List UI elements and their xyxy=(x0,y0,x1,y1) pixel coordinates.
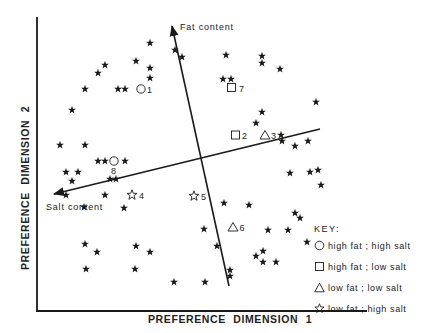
product-6-triangle-icon xyxy=(228,223,238,232)
consumer-star-icon xyxy=(252,252,260,260)
consumer-star-icon xyxy=(227,75,235,83)
consumer-star-icon xyxy=(317,181,325,189)
legend-title: KEY: xyxy=(314,224,411,234)
consumer-star-icon xyxy=(291,142,299,150)
consumer-star-icon xyxy=(264,226,272,234)
consumer-star-icon xyxy=(296,214,304,222)
salt-content-label: Salt content xyxy=(46,202,103,212)
open-star-icon xyxy=(314,303,325,314)
legend-label: low fat ; high salt xyxy=(328,304,406,314)
consumer-star-icon xyxy=(121,85,129,93)
legend-item-high-fat-high-salt: high fat ; high salt xyxy=(314,235,411,256)
product-1-circle-icon xyxy=(137,85,145,93)
consumer-star-icon xyxy=(120,204,128,212)
consumer-star-icon xyxy=(94,69,102,77)
consumer-star-icon xyxy=(82,265,90,273)
consumer-star-icon xyxy=(68,106,76,114)
consumer-star-icon xyxy=(291,209,299,217)
product-5-open-star-icon xyxy=(189,191,199,201)
consumer-star-icon xyxy=(101,61,109,69)
product-4-open-star-icon xyxy=(127,190,137,200)
product-8-circle-icon xyxy=(110,157,118,165)
consumer-star-icon xyxy=(245,201,253,209)
consumer-star-icon xyxy=(132,57,140,65)
consumer-star-icon xyxy=(276,65,284,73)
triangle-icon xyxy=(314,282,325,293)
product-markers: 1 7 2 3 8 4 5 6 xyxy=(110,84,276,234)
consumer-star-icon xyxy=(146,74,154,82)
consumer-star-icon xyxy=(222,51,230,59)
product-3-label: 3 xyxy=(271,131,276,141)
consumer-star-icon xyxy=(62,168,70,176)
legend-label: high fat ; low salt xyxy=(328,262,406,272)
consumer-star-icon xyxy=(114,85,122,93)
consumer-star-icon xyxy=(304,137,312,145)
circle-icon xyxy=(314,240,325,251)
product-3-triangle-icon xyxy=(260,131,270,140)
consumer-star-icon xyxy=(303,238,311,246)
legend-label: high fat ; high salt xyxy=(328,241,411,251)
fat-content-vector xyxy=(172,26,229,286)
consumer-star-icon xyxy=(201,278,209,286)
consumer-star-icon xyxy=(81,240,89,248)
consumer-star-icon xyxy=(74,168,82,176)
consumer-star-icon xyxy=(314,166,322,174)
product-7-square-icon xyxy=(228,84,236,92)
legend-item-high-fat-low-salt: high fat ; low salt xyxy=(314,256,411,277)
consumer-star-icon xyxy=(94,157,102,165)
salt-content-vector xyxy=(54,129,320,194)
consumer-star-icon xyxy=(286,169,294,177)
square-icon xyxy=(314,261,325,272)
consumer-star-icon xyxy=(258,52,266,60)
consumer-star-icon xyxy=(258,59,266,67)
product-2-square-icon xyxy=(232,131,240,139)
consumer-star-icon xyxy=(200,225,208,233)
attribute-vectors xyxy=(54,26,320,286)
consumer-star-icon xyxy=(68,177,76,185)
consumer-star-icon xyxy=(81,85,89,93)
consumer-star-icon xyxy=(101,157,109,165)
consumer-star-icon xyxy=(146,248,154,256)
fat-content-label: Fat content xyxy=(180,22,234,32)
consumer-star-icon xyxy=(132,242,140,250)
consumer-star-icon xyxy=(258,108,266,116)
product-6-label: 6 xyxy=(240,223,245,233)
consumer-star-icon xyxy=(170,278,178,286)
x-axis-title: PREFERENCE DIMENSION 1 xyxy=(148,313,312,325)
product-1-label: 1 xyxy=(147,85,152,95)
consumer-star-icon xyxy=(312,98,320,106)
consumer-star-icon xyxy=(252,119,260,127)
legend-label: low fat ; low salt xyxy=(328,283,402,293)
product-8-label: 8 xyxy=(111,166,116,176)
consumer-star-icon xyxy=(272,258,280,266)
product-7-label: 7 xyxy=(239,84,244,94)
consumer-star-icon xyxy=(146,39,154,47)
product-2-label: 2 xyxy=(242,131,247,141)
consumer-star-icon xyxy=(259,258,267,266)
consumer-star-icon xyxy=(101,191,109,199)
consumer-star-icon xyxy=(121,157,129,165)
consumer-star-icon xyxy=(93,248,101,256)
consumer-star-icon xyxy=(81,141,89,149)
consumer-star-icon xyxy=(259,247,267,255)
product-4-label: 4 xyxy=(139,191,144,201)
consumer-star-icon xyxy=(219,75,227,83)
legend: KEY: high fat ; high salt high fat ; low… xyxy=(314,224,411,319)
legend-item-low-fat-high-salt: low fat ; high salt xyxy=(314,298,411,319)
consumer-star-icon xyxy=(131,265,139,273)
consumer-star-icon xyxy=(56,141,64,149)
consumer-points xyxy=(56,39,325,286)
consumer-star-icon xyxy=(146,64,154,72)
legend-item-low-fat-low-salt: low fat ; low salt xyxy=(314,277,411,298)
consumer-star-icon xyxy=(284,226,292,234)
y-axis-title: PREFERENCE DIMENSION 2 xyxy=(19,106,31,270)
product-5-label: 5 xyxy=(201,192,206,202)
consumer-star-icon xyxy=(220,199,228,207)
consumer-star-icon xyxy=(306,168,314,176)
